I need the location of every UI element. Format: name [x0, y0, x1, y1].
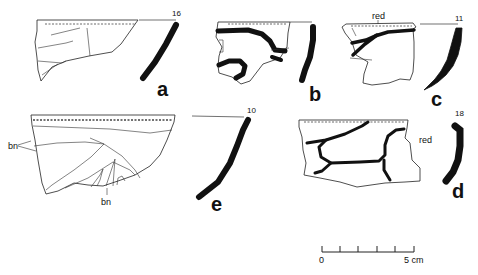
- pottery-sherd-plate: 16 a b red 11 c: [0, 0, 478, 275]
- sherd-e-profile: [199, 120, 248, 197]
- sherd-a-label: a: [157, 78, 169, 100]
- sherd-c-annotation-red: red: [372, 11, 385, 21]
- sherd-e-bn-leader-2: [18, 146, 36, 151]
- sherd-d-drawing: [0, 0, 420, 187]
- sherd-c: red 11 c: [342, 11, 464, 110]
- sherd-d-diameter: 18: [455, 109, 464, 118]
- sherd-c-drawing: [342, 20, 416, 85]
- sherd-e-annotation-bn-base: bn: [101, 197, 111, 207]
- sherd-e-annotation-bn-side: bn: [8, 141, 18, 151]
- sherd-c-profile: [424, 28, 462, 90]
- sherd-e-label: e: [211, 193, 222, 215]
- sherd-a-profile: [143, 25, 176, 78]
- sherd-a: 16 a: [35, 9, 181, 100]
- sherd-e-bn-leader-1: [18, 141, 31, 145]
- sherd-d-label: d: [452, 180, 464, 202]
- scale-bar-end-label: 5 cm: [404, 255, 424, 265]
- sherd-b-drawing: [216, 22, 290, 84]
- sherd-b: b: [216, 22, 321, 105]
- sherd-e-rim-line: [192, 116, 244, 117]
- sherd-a-drawing: [35, 20, 138, 81]
- sherd-e-drawing: [18, 115, 175, 195]
- sherd-c-label: c: [431, 88, 442, 110]
- sherd-b-profile: [302, 27, 313, 80]
- sherd-a-diameter: 16: [172, 9, 181, 18]
- sherd-b-label: b: [309, 83, 321, 105]
- scale-bar: 0 5 cm: [319, 246, 424, 265]
- sherd-e-diameter: 10: [247, 106, 256, 115]
- sherd-e: bn bn 10 e: [8, 106, 256, 215]
- sherd-d-profile: [446, 126, 460, 181]
- sherd-c-diameter: 11: [455, 14, 464, 23]
- scale-bar-start-label: 0: [319, 255, 324, 265]
- sherd-d-annotation-red: red: [419, 135, 432, 145]
